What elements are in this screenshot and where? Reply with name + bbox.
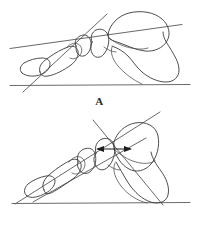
talar-axis-line-b (15, 112, 160, 204)
panel-a: A (0, 0, 199, 110)
panel-b-drawing (0, 110, 199, 234)
bone-calcaneus-inferior-b (114, 163, 147, 203)
panel-a-label: A (0, 95, 199, 107)
midfoot-axis-line-b (33, 138, 146, 202)
panel-b: B (0, 110, 199, 234)
bone-calcaneus-a (112, 32, 179, 82)
ground-reference-line-a (10, 85, 190, 86)
bone-calcaneus-b (116, 152, 169, 203)
figure-container: A (0, 0, 199, 234)
bone-talus-a (108, 12, 169, 52)
arrow-head-left (96, 146, 104, 152)
panel-a-drawing (0, 0, 199, 110)
bone-first-metatarsal-b (43, 159, 81, 194)
bone-distal-phalanx-b (24, 176, 55, 198)
ground-reference-line-b (12, 203, 190, 204)
bone-talus-b (114, 123, 159, 171)
bone-distal-phalanx-a (20, 58, 50, 76)
bone-calcaneus-inferior-a (111, 47, 142, 84)
bone-first-metatarsal-head-a (66, 43, 82, 59)
metatarsal-axis-line-a (23, 14, 107, 92)
bone-navicular-a (91, 29, 109, 57)
talar-axis-line-a (10, 25, 182, 49)
